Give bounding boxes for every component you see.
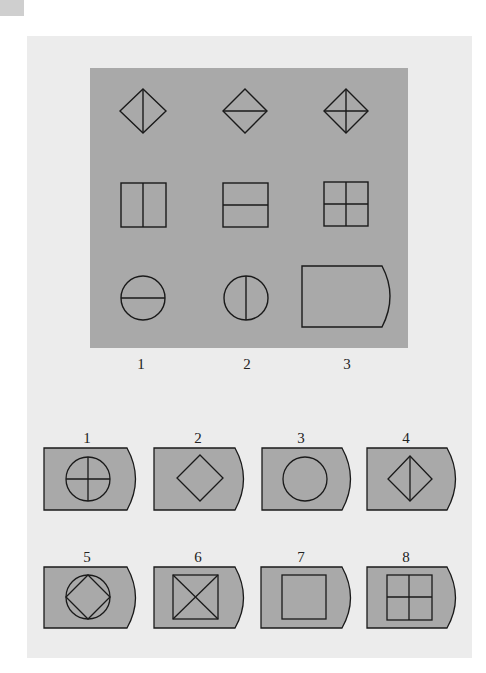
option-label-6: 6 <box>194 549 202 565</box>
option-label-3: 3 <box>297 430 305 446</box>
puzzle-figure: 1 2 3 <box>0 0 486 673</box>
option-5[interactable] <box>44 567 136 628</box>
option-3[interactable] <box>262 448 351 510</box>
column-label-2: 2 <box>243 356 251 372</box>
matrix-background <box>90 68 408 348</box>
option-label-2: 2 <box>194 430 202 446</box>
option-label-7: 7 <box>297 549 305 565</box>
option-2[interactable] <box>154 448 244 510</box>
option-4[interactable] <box>367 448 456 510</box>
option-8[interactable] <box>367 567 456 628</box>
option-1[interactable] <box>44 448 136 510</box>
column-label-1: 1 <box>137 356 145 372</box>
option-7[interactable] <box>261 567 351 628</box>
column-label-3: 3 <box>343 356 351 372</box>
option-label-1: 1 <box>83 430 91 446</box>
option-label-4: 4 <box>402 430 410 446</box>
option-label-5: 5 <box>83 549 91 565</box>
option-label-8: 8 <box>402 549 410 565</box>
option-6[interactable] <box>154 567 244 628</box>
